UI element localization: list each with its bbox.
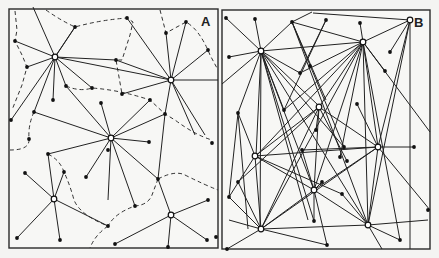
leaf-node bbox=[147, 140, 151, 144]
leaf-node bbox=[398, 238, 402, 242]
leaf-node bbox=[23, 171, 27, 175]
leaf-node bbox=[163, 112, 167, 116]
leaf-node bbox=[206, 48, 210, 52]
hub-node bbox=[108, 135, 114, 141]
hub-node bbox=[168, 212, 174, 218]
leaf-node bbox=[62, 170, 66, 174]
hub-node bbox=[375, 144, 381, 150]
panel-a-frame bbox=[9, 9, 218, 248]
leaf-node bbox=[120, 92, 124, 96]
leaf-node bbox=[148, 98, 152, 102]
leaf-node bbox=[114, 58, 118, 62]
leaf-node bbox=[358, 21, 362, 25]
hub-node bbox=[316, 104, 322, 110]
hub-node bbox=[168, 77, 174, 83]
figure-network-diagram: A B bbox=[0, 0, 439, 258]
leaf-node bbox=[13, 39, 17, 43]
leaf-node bbox=[300, 148, 304, 152]
leaf-node bbox=[426, 208, 430, 212]
panel-b: B bbox=[222, 10, 430, 251]
leaf-node bbox=[15, 236, 19, 240]
leaf-node bbox=[58, 238, 62, 242]
leaf-node bbox=[205, 238, 209, 242]
leaf-node bbox=[106, 224, 110, 228]
hub-node bbox=[252, 153, 258, 159]
leaf-node bbox=[227, 55, 231, 59]
leaf-node bbox=[253, 17, 257, 21]
leaf-node bbox=[64, 84, 68, 88]
hub-node bbox=[365, 222, 371, 228]
leaf-node bbox=[184, 20, 188, 24]
leaf-node bbox=[282, 108, 286, 112]
panel-a: A bbox=[9, 7, 218, 249]
leaf-node bbox=[388, 50, 392, 54]
leaf-node bbox=[340, 192, 344, 196]
leaf-node bbox=[225, 247, 229, 251]
leaf-node bbox=[125, 16, 129, 20]
leaf-node bbox=[312, 219, 316, 223]
leaf-node bbox=[214, 235, 218, 239]
leaf-node bbox=[90, 86, 94, 90]
leaf-node bbox=[99, 101, 103, 105]
hub-node bbox=[51, 196, 57, 202]
leaf-node bbox=[156, 177, 160, 181]
leaf-node bbox=[25, 65, 29, 69]
hub-node bbox=[258, 48, 264, 54]
leaf-node bbox=[84, 175, 88, 179]
leaf-node bbox=[236, 111, 240, 115]
panel-b-label: B bbox=[414, 15, 423, 30]
hub-node bbox=[407, 17, 413, 23]
panel-a-label: A bbox=[201, 14, 211, 29]
leaf-node bbox=[227, 195, 231, 199]
leaf-node bbox=[345, 159, 349, 163]
hub-node bbox=[258, 226, 264, 232]
leaf-node bbox=[325, 243, 329, 247]
leaf-node bbox=[32, 110, 36, 114]
leaf-node bbox=[164, 31, 168, 35]
leaf-node bbox=[73, 25, 77, 29]
leaf-node bbox=[166, 245, 170, 249]
leaf-node bbox=[210, 141, 214, 145]
leaf-node bbox=[9, 118, 13, 122]
hub-node bbox=[311, 187, 317, 193]
leaf-node bbox=[342, 145, 346, 149]
hub-node bbox=[52, 54, 58, 60]
leaf-node bbox=[314, 128, 318, 132]
leaf-node bbox=[308, 64, 312, 68]
leaf-node bbox=[51, 98, 55, 102]
leaf-node bbox=[236, 180, 240, 184]
leaf-node bbox=[106, 148, 110, 152]
leaf-node bbox=[46, 152, 50, 156]
leaf-node bbox=[27, 137, 31, 141]
leaf-node bbox=[324, 18, 328, 22]
leaf-node bbox=[412, 145, 416, 149]
leaf-node bbox=[133, 204, 137, 208]
leaf-node bbox=[338, 155, 342, 159]
hub-node bbox=[360, 39, 366, 45]
leaf-node bbox=[224, 16, 228, 20]
leaf-node bbox=[298, 71, 302, 75]
leaf-node bbox=[290, 20, 294, 24]
leaf-node bbox=[355, 102, 359, 106]
leaf-node bbox=[320, 180, 324, 184]
leaf-node bbox=[383, 69, 387, 73]
leaf-node bbox=[113, 242, 117, 246]
leaf-node bbox=[206, 198, 210, 202]
